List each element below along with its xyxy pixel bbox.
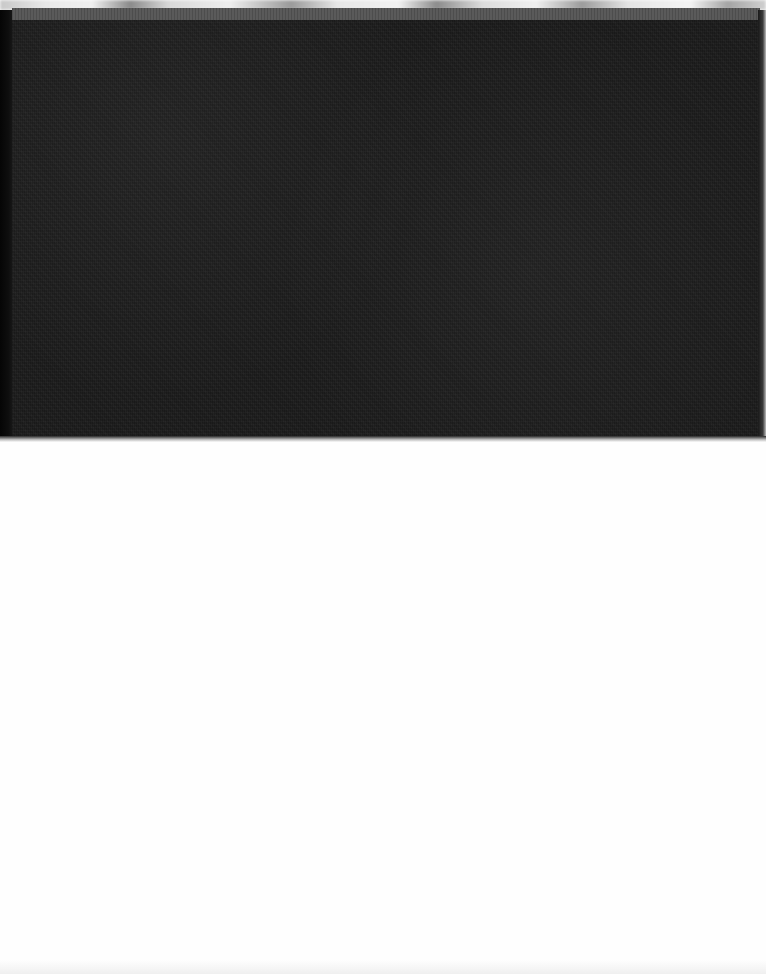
scanned-book-scene — [0, 0, 766, 974]
cover-top-edge-band — [12, 8, 760, 20]
cover-left-edge — [0, 10, 12, 440]
cover-right-edge — [758, 10, 766, 440]
page-bottom-shading — [0, 960, 766, 974]
dark-cloth-cover — [12, 8, 760, 440]
blank-white-page — [0, 442, 766, 974]
